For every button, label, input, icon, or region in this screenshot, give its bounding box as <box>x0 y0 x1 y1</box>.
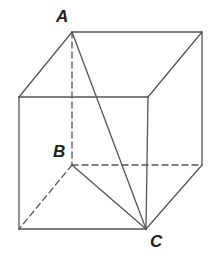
hidden-edge-b-bfl <box>19 165 72 229</box>
label-c: C <box>150 233 162 250</box>
edge-a-tfl <box>19 32 72 97</box>
edge-bbr-c <box>146 165 202 229</box>
visible-edges <box>19 32 202 229</box>
label-a: A <box>56 8 68 25</box>
label-b: B <box>53 143 65 160</box>
diagonal-a-c <box>72 32 146 229</box>
cube-diagram <box>0 0 217 256</box>
edge-tbr-tfr <box>148 32 202 97</box>
diagonals <box>72 32 146 229</box>
hidden-edges <box>19 32 202 229</box>
edge-tfr-c <box>146 97 148 229</box>
diagonal-b-c <box>72 165 146 229</box>
